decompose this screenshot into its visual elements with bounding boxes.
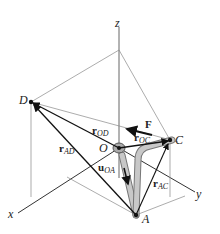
r-ac-label: rAC — [153, 177, 169, 191]
y-label: y — [195, 187, 202, 201]
point-c-label: C — [175, 133, 184, 147]
point-o — [117, 146, 121, 150]
point-c — [168, 138, 172, 142]
point-d-label: D — [18, 93, 28, 107]
point-o-label: O — [99, 141, 108, 155]
vector-diagram: z x y D O C A F rOD rOC rAD rAC uOA — [0, 0, 220, 234]
point-a — [134, 213, 138, 217]
r-od-label: rOD — [92, 124, 109, 138]
axes — [18, 27, 195, 213]
x-label: x — [7, 207, 14, 221]
z-label: z — [114, 16, 120, 30]
pipe-structure — [113, 140, 172, 215]
f-label: F — [145, 118, 152, 130]
u-oa-label: uOA — [98, 161, 115, 175]
r-ad-label: rAD — [59, 142, 75, 156]
point-d — [29, 100, 33, 104]
point-a-label: A — [141, 212, 150, 226]
